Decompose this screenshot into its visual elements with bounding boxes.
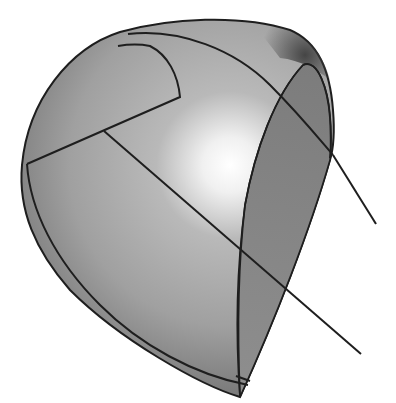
- figure-canvas: [0, 0, 396, 403]
- solid-diagram: [0, 0, 396, 403]
- axis-line-upper: [333, 155, 376, 224]
